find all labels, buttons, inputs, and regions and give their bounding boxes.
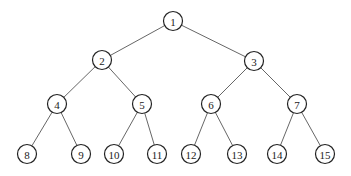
tree-node-6: 6 [202, 95, 221, 114]
node-label: 12 [186, 149, 197, 161]
edge-3-6 [218, 68, 248, 98]
edge-1-3 [182, 25, 246, 57]
binary-tree-diagram: 123456789101112131415 [0, 0, 351, 176]
tree-nodes: 123456789101112131415 [18, 12, 335, 164]
node-label: 4 [54, 99, 60, 111]
edge-4-9 [61, 113, 77, 146]
edge-5-10 [119, 112, 138, 145]
node-label: 2 [99, 55, 105, 67]
node-label: 11 [152, 149, 163, 161]
edge-6-12 [195, 113, 208, 145]
node-label: 6 [208, 99, 214, 111]
node-label: 8 [24, 149, 30, 161]
tree-node-5: 5 [133, 95, 152, 114]
tree-node-7: 7 [288, 95, 307, 114]
tree-node-10: 10 [105, 145, 124, 164]
edge-1-2 [110, 26, 164, 56]
edge-7-15 [302, 112, 321, 145]
node-label: 10 [109, 149, 121, 161]
tree-node-13: 13 [228, 145, 247, 164]
node-label: 14 [272, 149, 284, 161]
tree-node-2: 2 [93, 51, 112, 70]
node-label: 1 [170, 16, 176, 28]
node-label: 13 [232, 149, 244, 161]
edge-3-7 [261, 68, 291, 98]
tree-node-3: 3 [245, 52, 264, 71]
edge-5-11 [145, 113, 155, 145]
edge-4-8 [32, 112, 52, 146]
edge-2-4 [64, 67, 95, 98]
tree-node-15: 15 [316, 145, 335, 164]
tree-node-9: 9 [72, 145, 91, 164]
tree-node-8: 8 [18, 145, 37, 164]
edge-6-13 [215, 112, 232, 145]
tree-edges [32, 25, 320, 146]
node-label: 7 [294, 99, 300, 111]
node-label: 15 [320, 149, 332, 161]
tree-node-14: 14 [268, 145, 287, 164]
tree-node-1: 1 [164, 12, 183, 31]
edge-2-5 [108, 67, 135, 97]
edge-7-14 [281, 113, 294, 145]
tree-node-11: 11 [148, 145, 167, 164]
node-label: 9 [78, 149, 84, 161]
tree-node-4: 4 [48, 95, 67, 114]
tree-node-12: 12 [182, 145, 201, 164]
node-label: 5 [139, 99, 145, 111]
node-label: 3 [251, 56, 257, 68]
